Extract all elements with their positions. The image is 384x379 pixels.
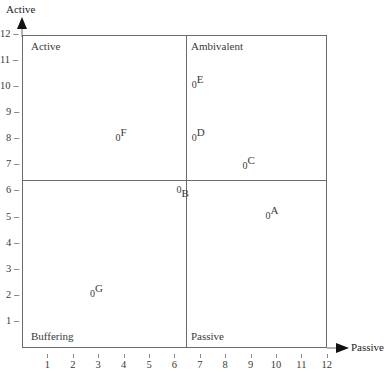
data-point-e: 0E (192, 78, 204, 90)
y-tick-9: 9 – (6, 106, 28, 117)
quadrant-label-passive: Passive (191, 330, 224, 342)
x-tick-3: 3 (88, 359, 108, 370)
x-tick-9: 9 (241, 359, 261, 370)
x-tick-mark-9 (251, 354, 252, 358)
point-label: A (270, 204, 278, 216)
x-tick-mark-2 (73, 354, 74, 358)
y-tick-1: 1 – (6, 315, 28, 326)
point-marker: 0 (192, 132, 197, 143)
x-tick-5: 5 (139, 359, 159, 370)
x-tick-8: 8 (215, 359, 235, 370)
y-tick-8: 8 – (6, 132, 28, 143)
point-marker: 0 (192, 79, 197, 90)
x-tick-mark-3 (98, 354, 99, 358)
x-tick-mark-10 (276, 354, 277, 358)
x-tick-mark-1 (47, 354, 48, 358)
x-tick-mark-4 (124, 354, 125, 358)
y-axis-label: Active (6, 3, 35, 15)
point-marker: 0 (116, 132, 121, 143)
data-point-d: 0D (192, 131, 205, 143)
y-tick-6: 6 – (6, 184, 28, 195)
plot-frame (22, 35, 327, 348)
point-label: E (197, 73, 204, 85)
y-tick-4: 4 – (6, 237, 28, 248)
point-label: G (95, 282, 103, 294)
x-axis-label: Passive (351, 341, 384, 353)
x-tick-10: 10 (266, 359, 286, 370)
quadrant-label-active: Active (31, 40, 60, 52)
x-axis-arrow-icon (327, 343, 349, 353)
y-tick-5: 5 – (6, 211, 28, 222)
data-point-f: 0F (116, 131, 127, 143)
point-label: D (197, 126, 205, 138)
data-point-a: 0A (265, 209, 278, 221)
data-point-b: 0B (176, 183, 188, 195)
x-tick-4: 4 (114, 359, 134, 370)
horizontal-divider (22, 180, 327, 181)
x-tick-mark-11 (301, 354, 302, 358)
point-label: C (248, 154, 255, 166)
x-tick-12: 12 (317, 359, 337, 370)
x-tick-mark-5 (149, 354, 150, 358)
data-point-g: 0G (90, 287, 103, 299)
y-tick-2: 2 – (6, 289, 28, 300)
x-tick-mark-7 (200, 354, 201, 358)
point-label: F (121, 126, 127, 138)
x-tick-11: 11 (291, 359, 311, 370)
y-tick-3: 3 – (6, 263, 28, 274)
point-label: B (181, 187, 188, 199)
quadrant-label-buffering: Buffering (31, 330, 74, 342)
x-tick-mark-6 (174, 354, 175, 358)
data-point-c: 0C (243, 159, 255, 171)
x-tick-1: 1 (37, 359, 57, 370)
point-marker: 0 (243, 160, 248, 171)
x-tick-mark-12 (327, 354, 328, 358)
y-tick-7: 7 – (6, 158, 28, 169)
x-tick-2: 2 (63, 359, 83, 370)
x-tick-6: 6 (164, 359, 184, 370)
quadrant-label-ambivalent: Ambivalent (191, 40, 243, 52)
x-tick-7: 7 (190, 359, 210, 370)
y-tick-10: 10 – (0, 80, 22, 91)
x-tick-mark-8 (225, 354, 226, 358)
y-tick-11: 11 – (0, 54, 22, 65)
y-tick-12: 12 – (0, 28, 22, 39)
